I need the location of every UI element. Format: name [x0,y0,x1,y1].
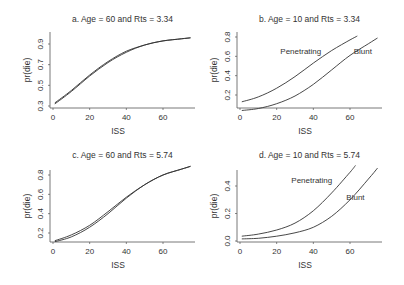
figure: a. Age = 60 and Rts = 3.3402040600.30.50… [0,0,404,285]
y-axis-label: pr(die) [209,58,219,83]
panel-d: d. Age = 10 and Rts = 5.7402040600.00.20… [209,150,382,270]
y-tick-label: 0.2 [36,227,45,239]
panel-title: c. Age = 60 and Rts = 5.74 [72,150,173,160]
panel-a: a. Age = 60 and Rts = 3.3402040600.30.50… [22,14,195,136]
x-tick-label: 0 [238,113,243,122]
panel-title: a. Age = 60 and Rts = 3.34 [72,14,173,24]
panel-b: b. Age = 10 and Rts = 3.3402040600.20.40… [209,14,382,136]
series-penetrating [55,38,191,103]
x-axis-label: ISS [298,126,312,136]
y-tick-label: 0.0 [223,235,232,247]
x-tick-label: 40 [122,113,131,122]
y-axis-label: pr(die) [22,194,32,219]
y-tick-label: 0.7 [36,59,45,71]
y-axis-label: pr(die) [209,194,219,219]
x-tick-label: 40 [309,113,318,122]
y-tick-label: 0.2 [223,89,232,101]
annotation-blunt: Blunt [354,47,373,56]
x-tick-label: 20 [272,113,281,122]
y-tick-label: 0.4 [223,70,232,82]
y-tick-label: 0.8 [36,169,45,181]
series-blunt [55,166,191,241]
y-tick-label: 0.8 [223,31,232,43]
x-tick-label: 60 [159,113,168,122]
y-tick-label: 0.6 [223,50,232,62]
panel-title: b. Age = 10 and Rts = 3.34 [259,14,360,24]
y-tick-label: 0.4 [36,208,45,220]
x-axis-label: ISS [298,260,312,270]
y-tick-label: 0.3 [36,100,45,112]
annotation-penetrating: Penetrating [280,47,321,56]
panel-title: d. Age = 10 and Rts = 5.74 [259,150,360,160]
x-axis-label: ISS [111,260,125,270]
x-tick-label: 60 [346,247,355,256]
x-tick-label: 20 [272,247,281,256]
panel-c: c. Age = 60 and Rts = 5.7402040600.20.40… [22,150,195,270]
x-tick-label: 20 [85,113,94,122]
annotation-blunt: Blunt [346,193,365,202]
x-tick-label: 60 [346,113,355,122]
y-tick-label: 0.2 [223,207,232,219]
y-tick-label: 0.4 [223,180,232,192]
y-axis-label: pr(die) [22,58,32,83]
x-tick-label: 40 [122,247,131,256]
x-tick-label: 20 [85,247,94,256]
y-tick-label: 0.5 [36,79,45,91]
y-tick-label: 0.9 [36,38,45,50]
x-tick-label: 40 [309,247,318,256]
series-penetrating [242,36,357,102]
x-tick-label: 0 [51,247,56,256]
annotation-penetrating: Penetrating [291,176,332,185]
x-tick-label: 60 [159,247,168,256]
x-tick-label: 0 [238,247,243,256]
y-tick-label: 0.6 [36,188,45,200]
x-axis-label: ISS [111,126,125,136]
x-tick-label: 0 [51,113,56,122]
series-blunt [55,38,191,104]
series-penetrating [55,166,191,240]
